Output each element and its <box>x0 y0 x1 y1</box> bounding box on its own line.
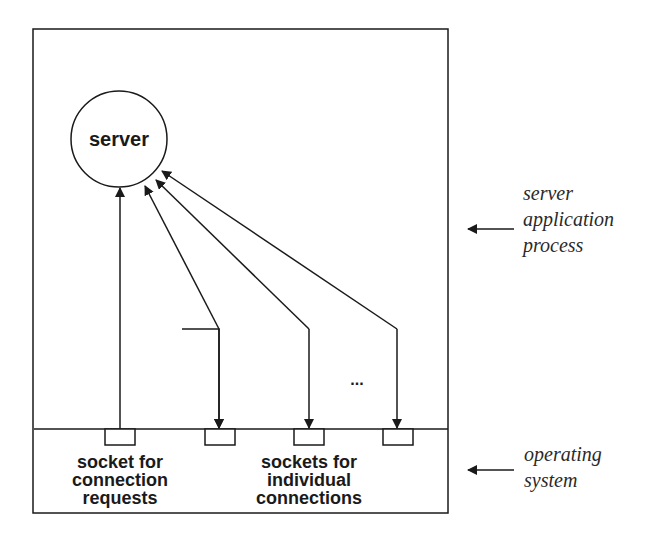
svg-text:operating: operating <box>524 443 602 466</box>
server-socket-diagram: server ... socket for connection request… <box>0 0 670 539</box>
svg-text:connections: connections <box>256 488 362 508</box>
layer-app-label: server application process <box>521 182 614 257</box>
arrow-conn3-up <box>162 171 397 329</box>
svg-text:requests: requests <box>82 488 157 508</box>
socket-listen <box>105 429 135 445</box>
socket-conn-2 <box>294 429 324 445</box>
layer-os-label: operating system <box>524 443 602 492</box>
svg-text:process: process <box>521 234 584 257</box>
socket-listen-label: socket for connection requests <box>72 452 168 508</box>
arrow-conn1-up <box>145 186 219 329</box>
svg-text:socket for: socket for <box>77 452 163 472</box>
svg-text:individual: individual <box>267 470 351 490</box>
socket-conn-1 <box>205 429 235 445</box>
svg-text:connection: connection <box>72 470 168 490</box>
more-connections-ellipsis: ... <box>350 371 363 388</box>
svg-text:sockets for: sockets for <box>261 452 357 472</box>
socket-conn-3 <box>383 429 413 445</box>
svg-text:system: system <box>524 469 577 492</box>
arrow-conn1 <box>182 329 219 428</box>
socket-conn-label: sockets for individual connections <box>256 452 362 508</box>
server-label: server <box>89 128 149 150</box>
svg-text:application: application <box>523 208 614 231</box>
svg-text:server: server <box>523 182 573 204</box>
